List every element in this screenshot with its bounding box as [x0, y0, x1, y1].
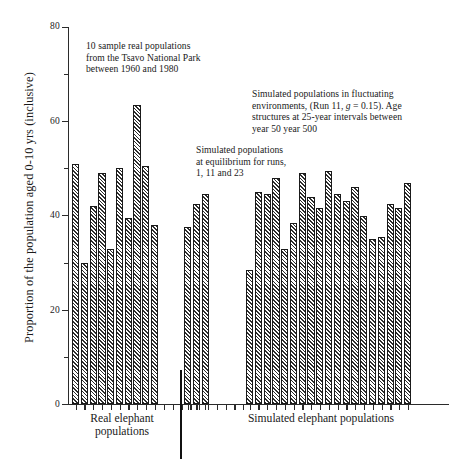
bar-fluctuating-10: [325, 171, 332, 404]
figure-bar-chart: Proportion of the population aged 0-10 y…: [0, 0, 454, 459]
x-tick-22: [329, 405, 330, 410]
bar-real-6: [116, 168, 123, 404]
x-tick-18: [294, 405, 295, 410]
x-tick-31: [408, 405, 409, 410]
x-tick-21: [320, 405, 321, 410]
bar-fluctuating-13: [351, 187, 358, 404]
bar-equilibrium-3: [202, 194, 209, 404]
annotation-fluct-line2-b: = 0.15). Age: [351, 100, 402, 111]
annotation-equilibrium: Simulated populations at equilibrium for…: [196, 144, 314, 179]
caption-real-line1: Real elephant: [62, 412, 182, 425]
bar-fluctuating-14: [360, 216, 367, 405]
bar-fluctuating-5: [281, 249, 288, 405]
x-tick-14: [258, 405, 259, 410]
bar-fluctuating-17: [387, 204, 394, 404]
x-tick-27: [373, 405, 374, 410]
annotation-real-line1: 10 sample real populations: [86, 40, 246, 52]
bar-real-2: [81, 263, 88, 404]
annotation-fluct-line1: Simulated populations in fluctuating: [252, 88, 442, 100]
bar-fluctuating-3: [264, 194, 271, 404]
y-tick-label-0: 0: [38, 400, 60, 410]
plot-area: [68, 27, 449, 404]
x-tick-19: [302, 405, 303, 410]
x-tick-41: [243, 405, 244, 410]
x-tick-25: [355, 405, 356, 410]
annotation-fluctuating: Simulated populations in fluctuating env…: [252, 88, 442, 134]
bar-fluctuating-16: [378, 237, 385, 404]
x-tick-2: [93, 405, 94, 410]
x-tick-15: [267, 405, 268, 410]
x-tick-11: [196, 405, 197, 410]
x-tick-17: [285, 405, 286, 410]
x-tick-28: [382, 405, 383, 410]
annotation-fluct-line4: year 50 year 500: [252, 123, 442, 135]
annotation-real-line2: from the Tsavo National Park: [86, 52, 246, 64]
x-tick-35: [190, 405, 191, 410]
x-tick-3: [102, 405, 103, 410]
bar-group-equilibrium: [184, 27, 209, 404]
bar-real-10: [151, 225, 158, 404]
x-tick-6: [128, 405, 129, 410]
bar-fluctuating-12: [343, 201, 350, 404]
x-tick-29: [390, 405, 391, 410]
bar-fluctuating-19: [404, 183, 411, 404]
y-axis-tick-labels: 80 60 40 20 0: [30, 0, 60, 459]
bar-real-3: [90, 206, 97, 404]
x-tick-32: [164, 405, 165, 410]
bar-real-5: [107, 249, 114, 405]
x-tick-5: [120, 405, 121, 410]
x-tick-26: [364, 405, 365, 410]
x-tick-30: [399, 405, 400, 410]
x-tick-0: [76, 405, 77, 410]
bar-real-1: [72, 164, 79, 404]
bar-real-7: [125, 218, 132, 404]
annotation-eq-line3: 1, 11 and 23: [196, 167, 314, 179]
x-tick-33: [173, 405, 174, 410]
bar-fluctuating-8: [307, 197, 314, 404]
caption-real-elephant-populations: Real elephant populations: [62, 412, 182, 439]
annotation-real-line3: between 1960 and 1980: [86, 63, 246, 75]
bar-fluctuating-9: [316, 208, 323, 404]
bar-equilibrium-1: [184, 227, 191, 404]
bar-fluctuating-18: [395, 208, 402, 404]
x-tick-10: [188, 405, 189, 410]
annotation-eq-line1: Simulated populations: [196, 144, 314, 156]
x-tick-12: [205, 405, 206, 410]
annotation-eq-line2: at equilibrium for runs,: [196, 156, 314, 168]
y-tick-label-60: 60: [38, 117, 60, 127]
bar-fluctuating-15: [369, 239, 376, 404]
x-tick-13: [250, 405, 251, 410]
bar-fluctuating-4: [272, 178, 279, 404]
y-tick-label-40: 40: [38, 211, 60, 221]
x-tick-38: [217, 405, 218, 410]
x-tick-20: [311, 405, 312, 410]
bar-fluctuating-7: [299, 173, 306, 404]
bar-fluctuating-2: [255, 192, 262, 404]
x-tick-24: [346, 405, 347, 410]
x-tick-40: [234, 405, 235, 410]
x-tick-1: [84, 405, 85, 410]
bar-group-fluctuating: [246, 27, 411, 404]
y-tick-0: [62, 404, 68, 405]
annotation-fluct-line2-a: environments, (Run 11,: [252, 100, 346, 111]
y-tick-label-80: 80: [38, 22, 60, 32]
bar-fluctuating-6: [290, 223, 297, 404]
annotation-fluct-line3: structures at 25-year intervals between: [252, 111, 442, 123]
x-tick-39: [226, 405, 227, 410]
bar-fluctuating-11: [334, 194, 341, 404]
x-tick-16: [276, 405, 277, 410]
x-tick-23: [338, 405, 339, 410]
annotation-fluct-line2: environments, (Run 11, g = 0.15). Age: [252, 100, 442, 112]
x-tick-36: [199, 405, 200, 410]
x-tick-7: [137, 405, 138, 410]
bar-fluctuating-1: [246, 270, 253, 404]
bar-group-real-populations: [72, 27, 158, 404]
group-separator-mark: [180, 370, 182, 459]
y-tick-label-20: 20: [38, 306, 60, 316]
bar-real-9: [142, 166, 149, 404]
bar-equilibrium-2: [193, 204, 200, 404]
x-tick-9: [155, 405, 156, 410]
x-tick-4: [111, 405, 112, 410]
x-tick-8: [146, 405, 147, 410]
annotation-real-populations: 10 sample real populations from the Tsav…: [86, 40, 246, 75]
